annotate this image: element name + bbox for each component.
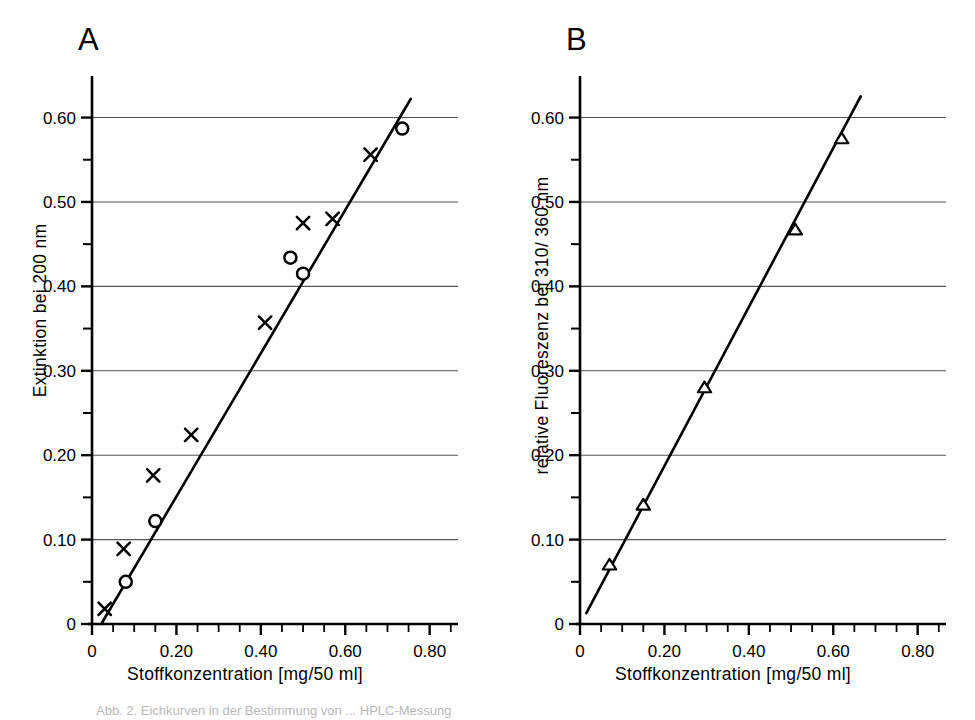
panel-a-y-tick-label: 0 — [67, 615, 76, 634]
panel-a-x-tick-label: 0.20 — [160, 642, 193, 661]
panel-a: A Extinktion bei 200 nm Stoffkonzentrati… — [0, 0, 487, 700]
panel-a-marker-circle-open — [120, 576, 132, 588]
panel-a-plot: 00.200.400.600.8000.100.200.300.400.500.… — [0, 0, 487, 700]
panel-b-x-tick-label: 0.80 — [901, 642, 934, 661]
panel-b-gridlines — [580, 118, 946, 540]
panel-b-y-tick-label: 0 — [555, 615, 564, 634]
panel-a-marker-circle-open — [297, 268, 309, 280]
panel-a-marker-x — [185, 429, 197, 441]
panel-a-y-tick-label: 0.50 — [43, 193, 76, 212]
panel-b-x-tick-label: 0.60 — [817, 642, 850, 661]
panel-a-y-tick-label: 0.10 — [43, 531, 76, 550]
panel-b-y-tick-label: 0.40 — [531, 277, 564, 296]
panel-b-x-tick-label: 0.40 — [732, 642, 765, 661]
panel-a-marker-x — [364, 148, 376, 160]
panel-b-marker-triangle-open — [637, 499, 650, 510]
panel-a-y-tick-label: 0.30 — [43, 362, 76, 381]
panel-b-y-tick-label: 0.60 — [531, 109, 564, 128]
panel-a-marker-circle-open — [284, 252, 296, 264]
panel-a-x-tick-label: 0.60 — [329, 642, 362, 661]
panel-a-marker-circle-open — [149, 515, 161, 527]
panel-b-x-tick-label: 0.20 — [648, 642, 681, 661]
figure-caption: Abb. 2. Eichkurven in der Bestimmung von… — [96, 703, 956, 718]
panel-a-marker-x — [297, 217, 309, 229]
panel-b-y-tick-label: 0.30 — [531, 362, 564, 381]
panel-b-y-tick-label: 0.10 — [531, 531, 564, 550]
panel-a-tick-labels: 00.200.400.600.8000.100.200.300.400.500.… — [43, 109, 446, 661]
panel-a-y-tick-label: 0.60 — [43, 109, 76, 128]
panel-a-marker-x — [147, 469, 159, 481]
panel-a-y-tick-label: 0.40 — [43, 277, 76, 296]
panel-b-tick-labels: 00.200.400.600.8000.100.200.300.400.500.… — [531, 109, 934, 661]
panel-b-x-tick-label: 0 — [575, 642, 584, 661]
panel-b-plot: 00.200.400.600.8000.100.200.300.400.500.… — [488, 0, 975, 700]
panel-a-x-tick-label: 0.40 — [244, 642, 277, 661]
panel-a-marker-x — [117, 543, 129, 555]
panel-a-marker-x — [259, 316, 271, 328]
panel-a-data-markers — [98, 123, 408, 615]
panel-a-x-tick-label: 0 — [87, 642, 96, 661]
panel-b-ticks — [569, 118, 939, 635]
panel-a-ticks — [81, 118, 451, 635]
panel-a-axes — [88, 76, 458, 624]
panel-b-fit-line — [586, 96, 860, 613]
panel-b: B relative Fluoreszenz bei 310/ 360 nm S… — [488, 0, 975, 700]
panel-a-marker-circle-open — [396, 123, 408, 135]
figure-root: A Extinktion bei 200 nm Stoffkonzentrati… — [0, 0, 975, 720]
panel-b-marker-triangle-open — [835, 133, 848, 144]
panel-b-axes — [576, 76, 946, 624]
panel-b-y-tick-label: 0.50 — [531, 193, 564, 212]
panel-a-x-tick-label: 0.80 — [413, 642, 446, 661]
panel-a-marker-x — [326, 213, 338, 225]
panel-b-y-tick-label: 0.20 — [531, 446, 564, 465]
panel-a-y-tick-label: 0.20 — [43, 446, 76, 465]
panel-a-fit-line — [101, 99, 410, 624]
